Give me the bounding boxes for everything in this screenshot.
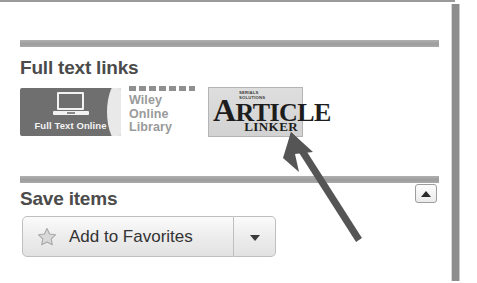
full-text-online-label: Full Text Online xyxy=(20,120,121,131)
favorites-button-group: Add to Favorites xyxy=(22,216,276,257)
article-linker-link[interactable]: SERIALS SOLUTIONS ARTICLE LINKER xyxy=(208,87,303,137)
wiley-dashed-rule-icon xyxy=(129,86,195,91)
add-to-favorites-label: Add to Favorites xyxy=(69,227,193,247)
caret-down-icon xyxy=(250,235,260,241)
wiley-online-library-label: Wiley Online Library xyxy=(129,94,172,135)
panel-scroll-edge[interactable] xyxy=(451,4,460,281)
wiley-line-3: Library xyxy=(129,121,172,135)
caret-up-icon xyxy=(421,191,431,197)
page-title-save-items: Save items xyxy=(20,188,117,210)
article-linker-subtitle: LINKER xyxy=(244,119,298,135)
favorites-dropdown-button[interactable] xyxy=(234,216,276,257)
wiley-line-1: Wiley xyxy=(129,94,172,108)
add-to-favorites-button[interactable]: Add to Favorites xyxy=(22,216,234,257)
wiley-line-2: Online xyxy=(129,108,172,122)
collapse-section-toggle[interactable] xyxy=(415,184,437,203)
section-divider-middle xyxy=(20,176,439,183)
section-divider-top xyxy=(20,40,439,47)
full-text-online-link[interactable]: Full Text Online xyxy=(20,88,121,136)
article-linker-initial: A xyxy=(213,92,236,128)
laptop-icon xyxy=(53,92,89,118)
page-title-full-text-links: Full text links xyxy=(20,57,138,79)
wiley-online-library-link[interactable]: Wiley Online Library xyxy=(125,86,195,138)
result-detail-panel: Full text links Full Text Online Wiley O… xyxy=(0,0,455,272)
star-icon xyxy=(37,227,57,247)
